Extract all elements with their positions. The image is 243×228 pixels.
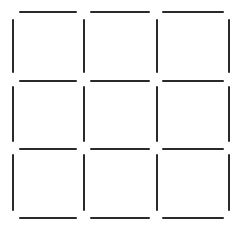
vertical-stick-c1-r0	[83, 19, 85, 73]
horizontal-stick-r1-c0	[19, 80, 77, 82]
vertical-stick-c2-r2	[156, 154, 158, 211]
vertical-stick-c3-r0	[228, 19, 230, 73]
vertical-stick-c1-r1	[83, 86, 85, 142]
vertical-stick-c0-r2	[12, 154, 14, 211]
matchstick-grid	[0, 0, 243, 228]
vertical-stick-c0-r0	[12, 19, 14, 73]
horizontal-stick-r3-c1	[90, 217, 150, 219]
horizontal-stick-r0-c0	[19, 11, 77, 13]
vertical-stick-c3-r2	[228, 154, 230, 211]
horizontal-stick-r0-c2	[162, 11, 224, 13]
horizontal-stick-r2-c1	[90, 148, 150, 150]
vertical-stick-c2-r0	[156, 19, 158, 73]
horizontal-stick-r0-c1	[90, 11, 150, 13]
horizontal-stick-r1-c2	[162, 80, 224, 82]
horizontal-stick-r2-c2	[162, 148, 224, 150]
horizontal-stick-r3-c2	[162, 217, 224, 219]
horizontal-stick-r3-c0	[19, 217, 77, 219]
vertical-stick-c2-r1	[156, 86, 158, 142]
horizontal-stick-r1-c1	[90, 80, 150, 82]
vertical-stick-c0-r1	[12, 86, 14, 142]
vertical-stick-c3-r1	[228, 86, 230, 142]
horizontal-stick-r2-c0	[19, 148, 77, 150]
vertical-stick-c1-r2	[83, 154, 85, 211]
